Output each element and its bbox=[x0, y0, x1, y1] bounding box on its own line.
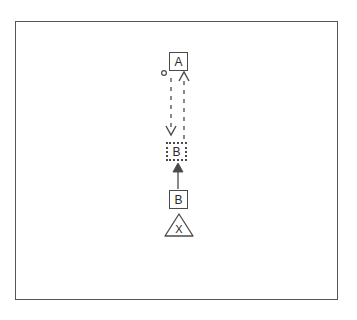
node-a-label: A bbox=[174, 55, 182, 69]
edge-a-down bbox=[166, 78, 176, 135]
marker-origin-dot bbox=[162, 71, 167, 76]
edge-b-up-dashed bbox=[179, 72, 189, 139]
node-b-goal: B bbox=[166, 142, 187, 161]
edge-b-up-solid bbox=[173, 163, 183, 189]
screenshot-canvas: A B B X bbox=[0, 0, 357, 320]
node-b-current: B bbox=[169, 190, 188, 209]
node-x-hazard bbox=[165, 214, 193, 236]
node-a: A bbox=[169, 52, 188, 71]
node-b-goal-label: B bbox=[172, 145, 180, 159]
node-b-current-label: B bbox=[174, 193, 182, 207]
